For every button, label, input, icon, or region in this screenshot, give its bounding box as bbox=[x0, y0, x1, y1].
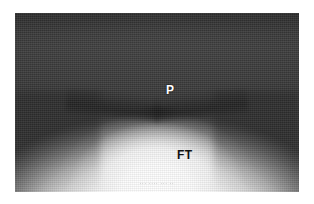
scan-acoustic-shadow-left bbox=[15, 92, 100, 192]
annotation-label-ft: FT bbox=[177, 149, 192, 161]
screenshot-root: P FT ··· ···· ··· ·· bbox=[0, 0, 314, 204]
scan-apex-notch bbox=[140, 106, 177, 119]
annotation-label-p: P bbox=[166, 84, 174, 96]
scanner-footer-annotation: ··· ···· ··· ·· bbox=[15, 180, 299, 186]
scan-acoustic-shadow-right bbox=[214, 92, 299, 192]
ultrasound-scan-frame: P FT ··· ···· ··· ·· bbox=[15, 13, 299, 192]
scan-top-vignette bbox=[15, 13, 299, 47]
